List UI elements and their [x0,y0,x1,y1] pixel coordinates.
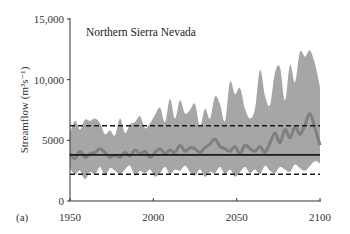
y-tick-label: 10,000 [34,74,65,86]
panel-label: (a) [16,211,29,224]
y-axis-label: Streamflow (m³s⁻¹) [18,66,31,153]
ensemble-range-band [70,50,320,179]
y-ticks: 0500010,00015,000 [34,13,70,207]
y-tick-label: 0 [59,195,65,207]
y-tick-label: 15,000 [34,13,65,25]
x-tick-label: 1950 [59,211,82,223]
y-tick-label: 5000 [42,134,65,146]
x-tick-label: 2000 [142,211,165,223]
x-ticks: 1950200020502100 [59,198,332,223]
chart-title: Northern Sierra Nevada [86,26,196,38]
x-tick-label: 2100 [309,211,332,223]
x-tick-label: 2050 [226,211,249,223]
streamflow-chart: 0500010,00015,000 1950200020502100 North… [0,0,350,234]
plot-area [70,50,320,179]
